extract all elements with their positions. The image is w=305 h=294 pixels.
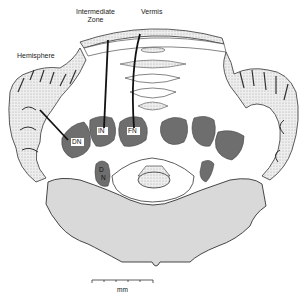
arrow-hemisphere	[40, 110, 68, 140]
cerebellum-diagram: DN IN FN D N mm	[0, 0, 305, 294]
svg-text:FN: FN	[128, 127, 137, 134]
fourth-ventricle	[112, 158, 194, 202]
svg-text:IN: IN	[98, 127, 105, 134]
scale-bar: mm	[92, 280, 153, 293]
nucleus-fn-right	[160, 117, 187, 144]
nucleus-in-right	[192, 116, 215, 146]
scale-unit: mm	[117, 286, 128, 293]
left-hemisphere	[9, 48, 86, 182]
nucleus-vn-left: D N	[95, 161, 110, 186]
arrow-intermediate	[104, 40, 108, 128]
nucleus-vn-right	[200, 160, 214, 182]
nucleus-dn: DN	[62, 122, 91, 158]
vermis-top	[80, 29, 226, 110]
right-hemisphere	[224, 52, 299, 180]
nucleus-dn-right	[215, 131, 244, 160]
svg-text:D: D	[99, 166, 104, 173]
nucleus-in: IN	[90, 116, 116, 146]
svg-text:DN: DN	[72, 138, 82, 145]
svg-text:N: N	[101, 174, 106, 181]
